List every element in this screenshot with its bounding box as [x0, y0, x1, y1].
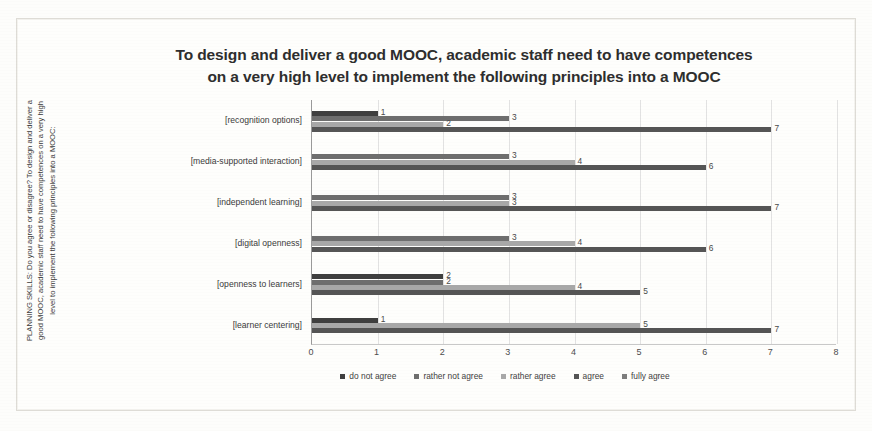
- plot-area: 13273463373462245157: [311, 100, 836, 345]
- category-axis: [recognition options][media-supported in…: [178, 100, 308, 345]
- legend-label: rather agree: [510, 371, 556, 381]
- category-label: [openness to learners]: [177, 279, 302, 289]
- x-tick-label: 1: [374, 347, 379, 357]
- bar-value-label: 7: [774, 325, 779, 333]
- bar: [312, 127, 771, 132]
- category-label: [independent learning]: [177, 197, 302, 207]
- legend-item[interactable]: do not agree: [340, 371, 396, 381]
- bar: [312, 111, 378, 116]
- bar: [312, 280, 443, 285]
- category-label: [digital openness]: [177, 238, 302, 248]
- x-axis-ticks: 012345678: [311, 347, 836, 363]
- category-label: [media-supported interaction]: [177, 156, 302, 166]
- bar: [312, 154, 509, 159]
- bar-value-label: 1: [381, 108, 386, 116]
- bar-group: 157: [312, 304, 836, 345]
- bar-value-label: 5: [643, 320, 648, 328]
- bar-value-label: 1: [381, 315, 386, 323]
- legend-swatch-icon: [574, 374, 579, 379]
- x-tick-label: 6: [702, 347, 707, 357]
- y-axis-title: PLANNING SKILLS: Do you agree or disagre…: [24, 98, 84, 343]
- gridline: [837, 100, 838, 344]
- bar-value-label: 6: [709, 162, 714, 170]
- chart-title-line-2: on a very high level to implement the fo…: [96, 66, 832, 88]
- bar-value-label: 3: [512, 113, 517, 121]
- x-tick-label: 8: [833, 347, 838, 357]
- legend-swatch-icon: [622, 374, 627, 379]
- bar: [312, 195, 509, 200]
- bar: [312, 201, 509, 206]
- legend-swatch-icon: [414, 374, 419, 379]
- legend-label: fully agree: [631, 371, 670, 381]
- bar-group: 1327: [312, 100, 836, 141]
- legend-label: agree: [583, 371, 604, 381]
- legend-label: do not agree: [349, 371, 396, 381]
- plot-area-wrapper: [recognition options][media-supported in…: [178, 100, 838, 345]
- bar: [312, 290, 640, 295]
- bar: [312, 285, 575, 290]
- category-label: [learner centering]: [177, 320, 302, 330]
- bar-value-label: 3: [512, 198, 517, 206]
- bar-value-label: 3: [512, 151, 517, 159]
- bar-value-label: 6: [709, 244, 714, 252]
- legend-item[interactable]: rather not agree: [414, 371, 483, 381]
- legend-swatch-icon: [340, 374, 345, 379]
- bar-value-label: 2: [446, 277, 451, 285]
- chart-legend: do not agreerather not agreerather agree…: [178, 371, 832, 381]
- bar: [312, 206, 771, 211]
- bar-value-label: 4: [578, 157, 583, 165]
- bar-group: 346: [312, 223, 836, 264]
- bar: [312, 328, 771, 333]
- bar: [312, 122, 443, 127]
- bar-value-label: 4: [578, 238, 583, 246]
- bar: [312, 165, 706, 170]
- bar-group: 2245: [312, 263, 836, 304]
- bar: [312, 274, 443, 279]
- bar-value-label: 2: [446, 119, 451, 127]
- bar-value-label: 4: [578, 282, 583, 290]
- x-tick-label: 7: [768, 347, 773, 357]
- category-label: [recognition options]: [177, 115, 302, 125]
- x-tick-label: 3: [505, 347, 510, 357]
- legend-swatch-icon: [501, 374, 506, 379]
- bar: [312, 318, 378, 323]
- bar: [312, 323, 640, 328]
- bar: [312, 241, 575, 246]
- bar-value-label: 3: [512, 233, 517, 241]
- chart-title: To design and deliver a good MOOC, acade…: [96, 44, 832, 88]
- bar: [312, 247, 706, 252]
- x-tick-label: 2: [440, 347, 445, 357]
- bar: [312, 236, 509, 241]
- chart-title-line-1: To design and deliver a good MOOC, acade…: [96, 44, 832, 66]
- bar-group: 346: [312, 141, 836, 182]
- bar-value-label: 7: [774, 203, 779, 211]
- x-tick-label: 0: [308, 347, 313, 357]
- bar-value-label: 5: [643, 287, 648, 295]
- x-tick-label: 4: [571, 347, 576, 357]
- bar-value-label: 7: [774, 124, 779, 132]
- x-tick-label: 5: [637, 347, 642, 357]
- legend-label: rather not agree: [423, 371, 483, 381]
- legend-item[interactable]: rather agree: [501, 371, 556, 381]
- bar-group: 337: [312, 182, 836, 223]
- scanned-page: To design and deliver a good MOOC, acade…: [0, 0, 872, 431]
- legend-item[interactable]: fully agree: [622, 371, 670, 381]
- bar: [312, 116, 509, 121]
- bar: [312, 160, 575, 165]
- legend-item[interactable]: agree: [574, 371, 604, 381]
